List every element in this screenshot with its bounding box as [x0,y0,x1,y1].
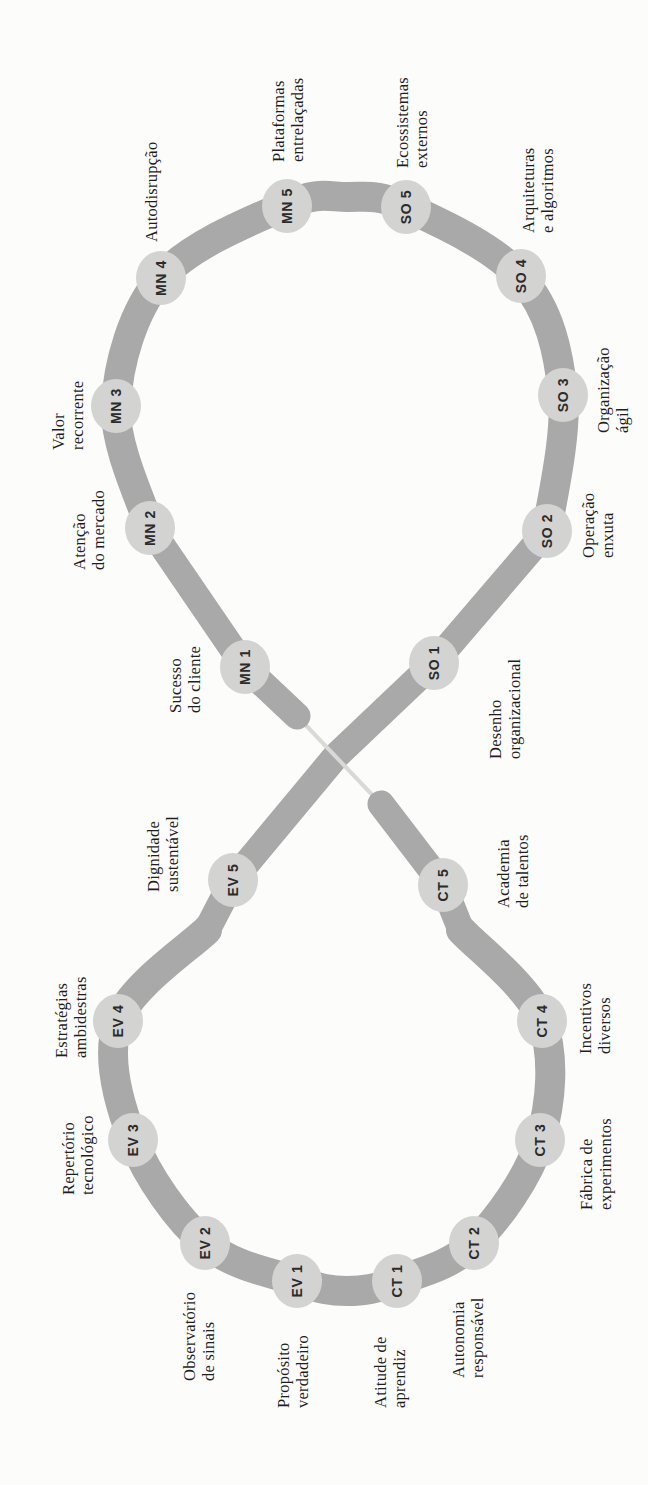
node-so-4: SO 4 [496,249,546,303]
node-code: EV 1 [289,1265,305,1298]
label-ct-3: Fábrica de experimentos [578,1108,615,1210]
label-ev-3: Repertório tecnológico [60,1101,97,1195]
node-code: SO 2 [539,514,555,548]
label-ev-4: Estratégias ambidestras [53,964,90,1058]
label-ct-2: Autonomia responsável [450,1282,487,1378]
node-so-2: SO 2 [522,504,572,558]
node-mn-2: MN 2 [125,501,175,555]
node-ev-2: EV 2 [180,1216,230,1270]
node-mn-3: MN 3 [91,379,141,433]
node-so-3: SO 3 [538,368,588,422]
loop-track-top [116,196,564,531]
node-code: CT 2 [466,1227,482,1260]
label-ct-5: Academia de talentos [495,816,532,908]
node-code: SO 4 [513,259,529,293]
node-ev-5: EV 5 [208,853,258,907]
label-mn-2: Atenção do mercado [71,478,108,570]
node-code: SO 1 [426,646,442,680]
node-ev-3: EV 3 [108,1113,158,1167]
node-mn-4: MN 4 [136,251,186,305]
node-ct-4: CT 4 [517,994,567,1048]
label-ev-2: Observatório de sinais [181,1279,218,1381]
label-mn-5: Plataformas entrelaçadas [270,58,307,162]
node-ct-1: CT 1 [372,1254,422,1308]
node-code: CT 5 [435,869,451,902]
node-mn-1: MN 1 [220,640,270,694]
label-mn-1: Sucesso do cliente [167,627,204,713]
node-code: SO 5 [398,190,414,224]
label-ev-5: Dignidade sustentável [145,798,182,892]
node-code: CT 4 [534,1005,550,1038]
node-ct-3: CT 3 [515,1113,565,1167]
node-ct-2: CT 2 [449,1216,499,1270]
label-mn-4: Autodisrupção [143,126,162,242]
node-code: MN 4 [153,260,169,296]
node-code: MN 5 [279,188,295,224]
node-mn-5: MN 5 [262,179,312,233]
label-so-4: Arquiteturas e algoritmos [520,129,557,233]
figure-eight-diagram: MN 1 MN 2 MN 3 MN 4 MN 5 SO 1 SO 2 SO 3 … [0,0,648,1485]
label-ev-1: Propósito verdadeiro [275,1320,312,1408]
node-code: EV 2 [197,1227,213,1260]
node-ct-5: CT 5 [418,858,468,912]
node-code: EV 5 [225,864,241,897]
node-code: CT 3 [532,1124,548,1157]
label-so-2: Operação enxuta [580,478,617,558]
node-ev-4: EV 4 [93,994,143,1048]
label-so-3: Organização ágil [595,337,632,433]
label-so-1: Desenho organizacional [487,641,524,759]
label-mn-3: Valor recorrente [50,362,87,450]
node-code: MN 1 [237,649,253,685]
node-code: MN 2 [142,510,158,546]
node-so-5: SO 5 [381,180,431,234]
label-ct-4: Incentivos diversos [577,968,614,1054]
node-code: EV 3 [125,1124,141,1157]
node-code: SO 3 [555,378,571,412]
node-code: CT 1 [389,1265,405,1298]
label-ct-1: Atitude de aprendiz [372,1322,409,1408]
node-code: EV 4 [110,1005,126,1038]
node-code: MN 3 [108,388,124,424]
node-so-1: SO 1 [409,636,459,690]
node-ev-1: EV 1 [272,1254,322,1308]
label-so-5: Ecossistemas externos [394,64,431,168]
